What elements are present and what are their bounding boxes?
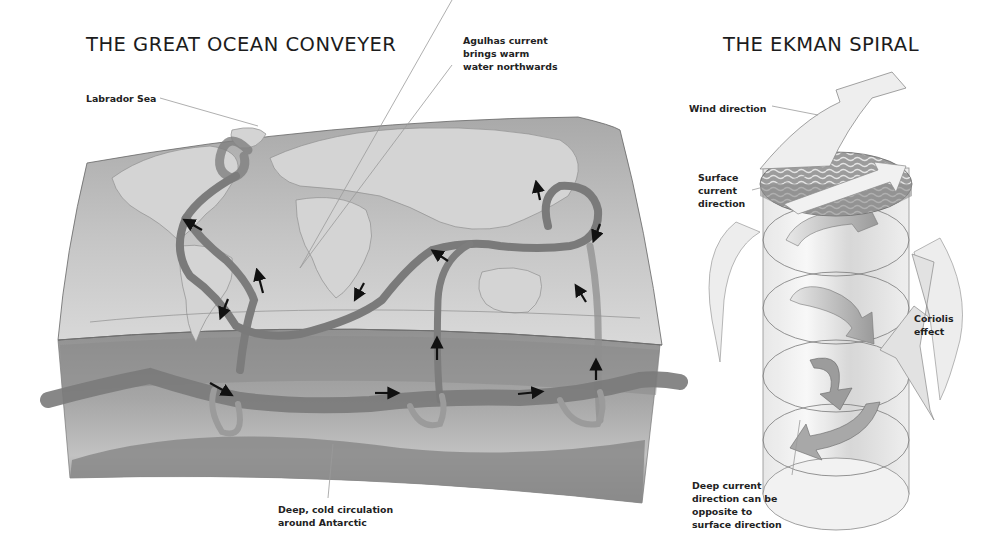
label-coriolis-effect: Coriolis effect [914,312,954,338]
label-agulhas-current: Agulhas current brings warm water northw… [463,34,558,73]
diagram-artwork [0,0,996,560]
label-wind-direction: Wind direction [689,102,766,115]
label-labrador-sea: Labrador Sea [86,92,156,105]
ekman-cylinder [709,72,963,530]
label-deep-current-direction: Deep current direction can be opposite t… [692,479,782,531]
label-deep-cold-circulation: Deep, cold circulation around Antarctic [278,503,393,529]
label-surface-current-direction: Surface current direction [698,171,745,210]
